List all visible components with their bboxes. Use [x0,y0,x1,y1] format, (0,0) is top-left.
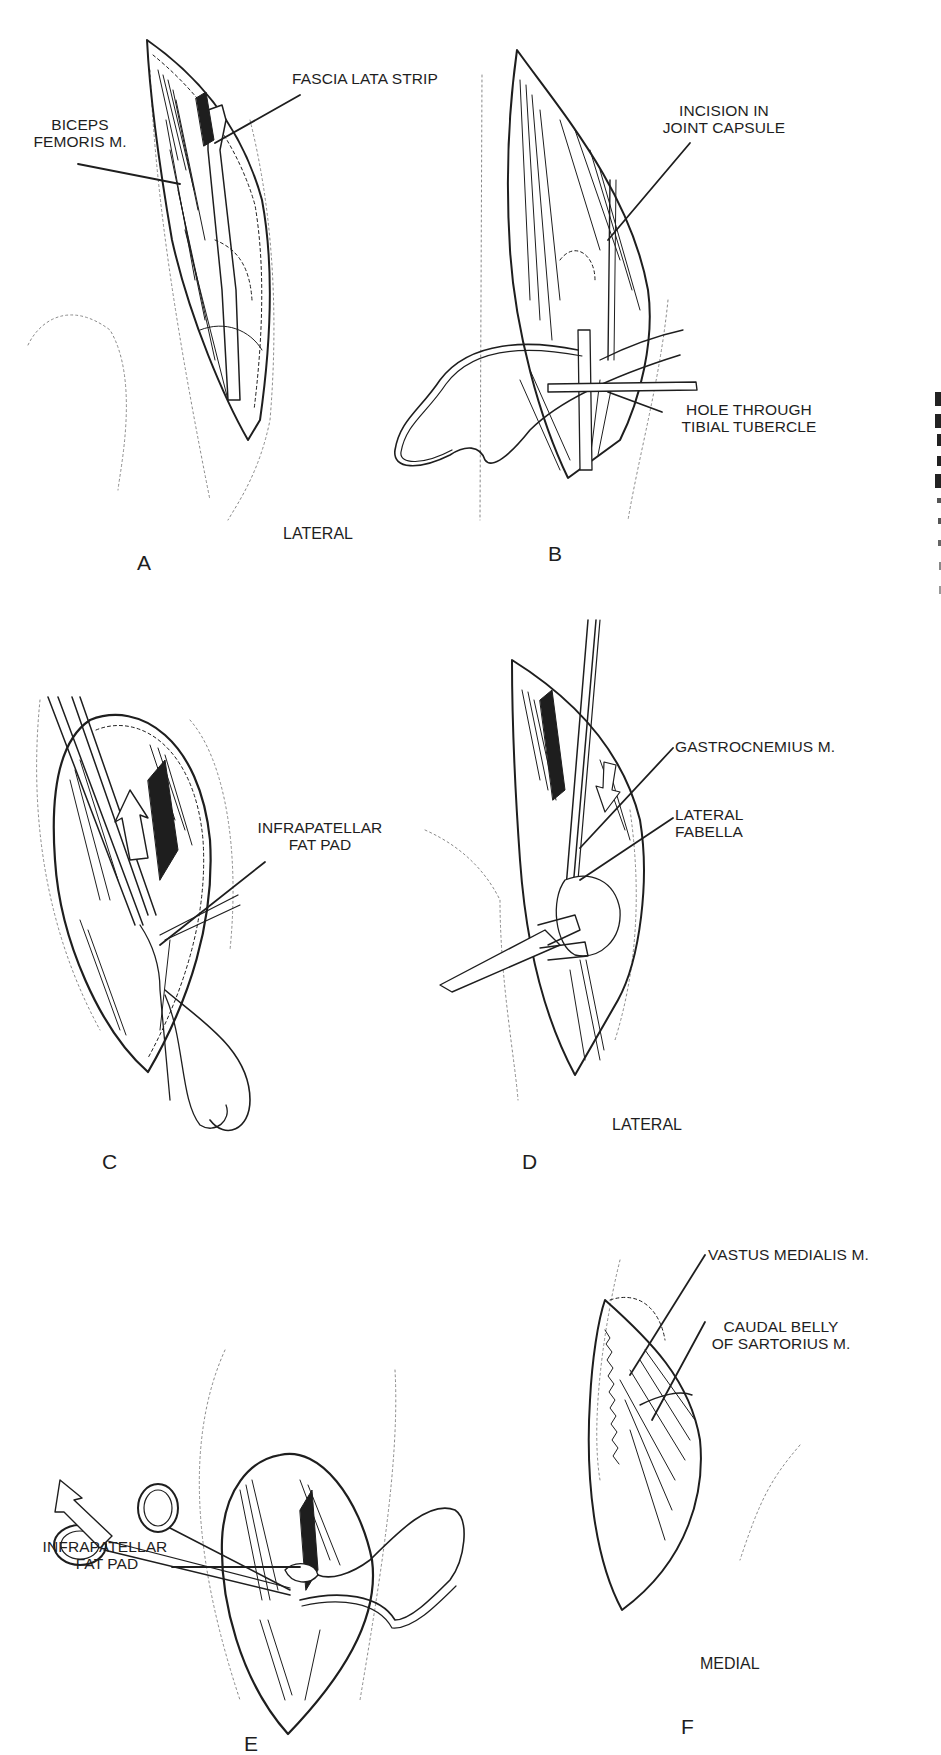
label-infrapatellar-fat-pad-e: INFRAPATELLAR FAT PAD [28,1538,182,1572]
label-gastrocnemius: GASTROCNEMIUS M. [675,738,835,755]
label-fascia-lata-strip: FASCIA LATA STRIP [270,70,460,87]
label-line: LATERAL [675,806,743,823]
label-line: OF SARTORIUS M. [700,1335,862,1352]
label-line: BICEPS [22,116,138,133]
label-line: INFRAPATELLAR [28,1538,182,1555]
label-infrapatellar-fat-pad-c: INFRAPATELLAR FAT PAD [252,819,388,853]
view-label-lateral-a: LATERAL [283,525,353,542]
panel-a-drawing [28,40,300,520]
glyph-sliver [935,414,941,428]
glyph-sliver [937,434,941,446]
label-incision-joint-capsule: INCISION IN JOINT CAPSULE [648,102,800,136]
panel-f-drawing [589,1255,800,1610]
label-line: FEMORIS M. [22,133,138,150]
label-line: GASTROCNEMIUS M. [675,738,835,755]
label-caudal-belly-sartorius: CAUDAL BELLY OF SARTORIUS M. [700,1318,862,1352]
label-line: FAT PAD [28,1555,182,1572]
view-label-medial: MEDIAL [700,1655,760,1672]
label-hole-tibial-tubercle: HOLE THROUGH TIBIAL TUBERCLE [665,401,833,435]
label-biceps-femoris: BICEPS FEMORIS M. [22,116,138,150]
panel-letter-f: F [681,1716,694,1738]
panel-letter-d: D [522,1151,537,1173]
label-line: VASTUS MEDIALIS M. [708,1246,869,1263]
label-line: INCISION IN [648,102,800,119]
label-line: INFRAPATELLAR [252,819,388,836]
panel-letter-b: B [548,543,562,565]
view-label-lateral-d: LATERAL [612,1116,682,1133]
panel-d-drawing [425,620,673,1100]
label-line: HOLE THROUGH [665,401,833,418]
glyph-sliver [935,474,941,488]
label-line: JOINT CAPSULE [648,119,800,136]
label-line: FAT PAD [252,836,388,853]
label-line: CAUDAL BELLY [700,1318,862,1335]
panel-letter-a: A [137,552,151,574]
label-vastus-medialis: VASTUS MEDIALIS M. [708,1246,869,1263]
glyph-sliver [937,498,941,503]
panel-letter-e: E [244,1733,258,1755]
label-lateral-fabella: LATERAL FABELLA [675,806,743,840]
panel-letter-c: C [102,1151,117,1173]
label-line: FASCIA LATA STRIP [270,70,460,87]
panel-c-drawing [37,697,265,1130]
label-line: FABELLA [675,823,743,840]
glyph-sliver [935,392,941,406]
glyph-sliver [937,456,941,466]
label-line: TIBIAL TUBERCLE [665,418,833,435]
